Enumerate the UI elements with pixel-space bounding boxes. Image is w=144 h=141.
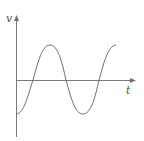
waveform-diagram: v t [0,0,144,141]
x-axis-label: t [126,84,131,97]
waveform-curve [16,45,116,114]
x-axis-arrow-icon [130,78,136,83]
y-axis-label: v [6,12,13,25]
y-axis-arrow-icon [14,15,19,21]
